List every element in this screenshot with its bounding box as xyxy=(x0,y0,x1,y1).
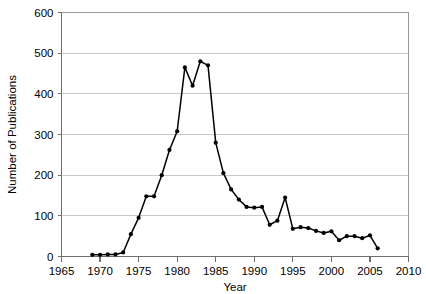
data-point xyxy=(314,229,318,233)
data-point xyxy=(137,216,141,220)
y-tick-label-400: 400 xyxy=(34,88,53,100)
x-tick-label-1970: 1970 xyxy=(87,265,113,277)
data-point xyxy=(106,252,110,256)
data-point xyxy=(352,234,356,238)
data-point xyxy=(268,223,272,227)
data-point xyxy=(244,205,248,209)
x-tick-label-2000: 2000 xyxy=(319,265,345,277)
data-point xyxy=(275,219,279,223)
data-point xyxy=(152,194,156,198)
data-point xyxy=(214,141,218,145)
data-point xyxy=(198,59,202,63)
data-point xyxy=(144,194,148,198)
data-point xyxy=(229,187,233,191)
data-point xyxy=(237,197,241,201)
y-axis-ticks: 0100200300400500600 xyxy=(34,7,61,263)
publications-line-chart: 0100200300400500600196519701975198019851… xyxy=(0,0,426,294)
x-tick-label-1985: 1985 xyxy=(203,265,229,277)
x-tick-label-1990: 1990 xyxy=(241,265,267,277)
data-point xyxy=(175,129,179,133)
data-point xyxy=(121,250,125,254)
data-point xyxy=(283,195,287,199)
x-tick-label-1995: 1995 xyxy=(280,265,306,277)
x-tick-label-1980: 1980 xyxy=(164,265,190,277)
data-point xyxy=(298,225,302,229)
data-point xyxy=(160,173,164,177)
y-tick-label-200: 200 xyxy=(34,169,53,181)
y-tick-label-300: 300 xyxy=(34,129,53,141)
data-point xyxy=(129,232,133,236)
data-point xyxy=(206,63,210,67)
data-point xyxy=(368,233,372,237)
data-point xyxy=(337,238,341,242)
y-tick-label-600: 600 xyxy=(34,7,53,19)
chart-canvas: 0100200300400500600196519701975198019851… xyxy=(0,0,426,294)
data-point xyxy=(190,84,194,88)
x-tick-label-1975: 1975 xyxy=(126,265,152,277)
data-point xyxy=(252,206,256,210)
x-tick-label-2005: 2005 xyxy=(357,265,383,277)
data-point xyxy=(322,231,326,235)
x-axis-title: Year xyxy=(223,281,246,293)
data-point xyxy=(221,171,225,175)
x-tick-label-2010: 2010 xyxy=(396,265,422,277)
data-point xyxy=(167,148,171,152)
data-point xyxy=(183,65,187,69)
x-axis-ticks: 1965197019751980198519901995200020052010 xyxy=(49,257,422,277)
data-point xyxy=(360,236,364,240)
y-tick-label-100: 100 xyxy=(34,210,53,222)
y-tick-label-500: 500 xyxy=(34,47,53,59)
data-point xyxy=(98,253,102,257)
x-tick-label-1965: 1965 xyxy=(49,265,75,277)
data-point xyxy=(329,229,333,233)
data-point xyxy=(260,205,264,209)
data-point xyxy=(306,226,310,230)
y-axis-title: Number of Publications xyxy=(6,75,18,194)
y-tick-label-0: 0 xyxy=(47,251,53,263)
data-point xyxy=(345,234,349,238)
data-point xyxy=(376,246,380,250)
data-point xyxy=(90,253,94,257)
data-point xyxy=(113,252,117,256)
data-point xyxy=(291,227,295,231)
